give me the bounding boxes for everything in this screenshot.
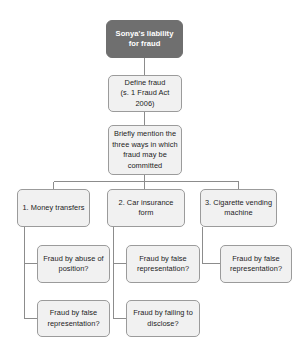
node-failing-to-disclose-label: Fraud by failing to disclose?	[130, 308, 196, 329]
node-false-representation-1-label: Fraud by false representation?	[41, 308, 106, 329]
node-three-ways: Briefly mention the three ways in which …	[108, 125, 182, 175]
node-branch-cigarette-vending-machine-label: 3. Cigarette vending machine	[204, 198, 273, 219]
node-false-representation-3: Fraud by false representation?	[220, 245, 292, 283]
node-branch-cigarette-vending-machine: 3. Cigarette vending machine	[200, 189, 277, 227]
node-define-fraud-label: Define fraud (s. 1 Fraud Act 2006)	[112, 78, 178, 110]
flowchart-canvas: Sonya's liability for fraud Define fraud…	[0, 0, 305, 358]
node-root-sonyas-liability: Sonya's liability for fraud	[106, 20, 183, 58]
node-abuse-of-position: Fraud by abuse of position?	[37, 245, 110, 283]
node-failing-to-disclose: Fraud by failing to disclose?	[126, 300, 200, 337]
node-abuse-of-position-label: Fraud by abuse of position?	[41, 254, 106, 275]
node-branch-car-insurance-form-label: 2. Car insurance form	[111, 198, 181, 219]
node-three-ways-label: Briefly mention the three ways in which …	[112, 129, 178, 171]
node-false-representation-2: Fraud by false representation?	[126, 245, 200, 283]
node-define-fraud: Define fraud (s. 1 Fraud Act 2006)	[108, 75, 182, 112]
node-branch-money-transfers-label: 1. Money transfers	[21, 203, 86, 214]
node-false-representation-2-label: Fraud by false representation?	[130, 254, 196, 275]
node-branch-money-transfers: 1. Money transfers	[17, 189, 90, 227]
node-false-representation-1: Fraud by false representation?	[37, 300, 110, 337]
node-root-label: Sonya's liability for fraud	[110, 29, 179, 50]
node-false-representation-3-label: Fraud by false representation?	[224, 254, 288, 275]
node-branch-car-insurance-form: 2. Car insurance form	[107, 189, 185, 227]
